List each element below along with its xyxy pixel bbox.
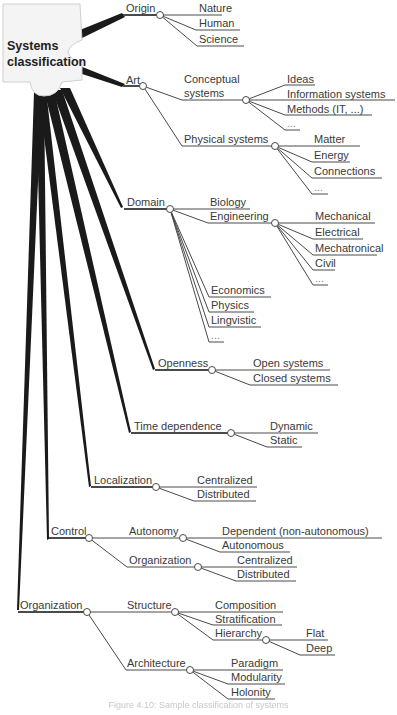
category-openness: Openness bbox=[158, 357, 208, 369]
leaf-ctrl-distributed: Distributed bbox=[237, 568, 290, 580]
leaf-physical-more: ... bbox=[314, 181, 323, 193]
leaf-loc-distributed: Distributed bbox=[197, 488, 250, 500]
category-art: Art bbox=[126, 74, 140, 86]
leaf-nature: Nature bbox=[199, 2, 232, 14]
leaf-electrical: Electrical bbox=[315, 226, 360, 238]
leaf-static: Static bbox=[270, 434, 298, 446]
leaf-methods: Methods (IT, ...) bbox=[287, 103, 363, 115]
leaf-dependent: Dependent (non-autonomous) bbox=[222, 525, 369, 537]
leaf-open-systems: Open systems bbox=[253, 357, 323, 369]
leaf-physics: Physics bbox=[211, 299, 249, 311]
leaf-closed-systems: Closed systems bbox=[253, 372, 331, 384]
node-architecture: Architecture bbox=[127, 657, 186, 669]
leaf-information-systems: Information systems bbox=[287, 88, 385, 100]
node-engineering: Engineering bbox=[210, 210, 269, 222]
trunk-lines bbox=[17, 13, 155, 610]
leaf-mechanical: Mechanical bbox=[315, 210, 371, 222]
leaf-flat: Flat bbox=[306, 627, 324, 639]
leaf-engineering-more: ... bbox=[315, 272, 324, 284]
leaf-stratification: Stratification bbox=[215, 613, 276, 625]
leaf-science: Science bbox=[199, 33, 238, 45]
leaf-holonity: Holonity bbox=[231, 686, 271, 698]
leaf-paradigm: Paradigm bbox=[231, 657, 278, 669]
leaf-dynamic: Dynamic bbox=[270, 420, 313, 432]
node-structure: Structure bbox=[127, 599, 172, 611]
node-control-organization: Organization bbox=[129, 554, 191, 566]
leaf-matter: Matter bbox=[314, 133, 345, 145]
leaf-conceptual-more: ... bbox=[287, 117, 296, 129]
leaf-biology: Biology bbox=[210, 196, 246, 208]
leaf-ideas: Ideas bbox=[287, 73, 314, 85]
leaf-loc-centralized: Centralized bbox=[197, 474, 253, 486]
leaf-energy: Energy bbox=[314, 149, 349, 161]
category-domain: Domain bbox=[127, 196, 165, 208]
category-localization: Localization bbox=[94, 474, 152, 486]
leaf-modularity: Modularity bbox=[231, 671, 282, 683]
leaf-composition: Composition bbox=[215, 599, 276, 611]
leaf-ctrl-centralized: Centralized bbox=[237, 554, 293, 566]
leaf-autonomous: Autonomous bbox=[222, 539, 284, 551]
leaf-domain-more: ... bbox=[211, 329, 220, 341]
category-organization: Organization bbox=[20, 599, 82, 611]
leaf-lingvistic: Lingvistic bbox=[211, 314, 256, 326]
leaf-mechatronical: Mechatronical bbox=[315, 242, 383, 254]
leaf-civil: Civil bbox=[315, 257, 336, 269]
category-control: Control bbox=[51, 525, 86, 537]
category-origin: Origin bbox=[126, 2, 155, 14]
root-label-line1: Systems bbox=[7, 39, 58, 54]
category-time-dependence: Time dependence bbox=[134, 420, 222, 432]
root-label-line2: classification bbox=[7, 55, 86, 70]
node-conceptual-line1: Conceptual bbox=[184, 73, 240, 85]
node-physical-systems: Physical systems bbox=[184, 133, 268, 145]
leaf-economics: Economics bbox=[211, 284, 265, 296]
node-hierarchy: Hierarchy bbox=[215, 627, 262, 639]
node-conceptual-line2: systems bbox=[184, 87, 224, 99]
node-autonomy: Autonomy bbox=[129, 525, 179, 537]
leaf-human: Human bbox=[199, 17, 234, 29]
leaf-deep: Deep bbox=[306, 642, 332, 654]
figure-caption: Figure 4.10: Sample classification of sy… bbox=[0, 700, 397, 710]
leaf-connections: Connections bbox=[314, 165, 375, 177]
